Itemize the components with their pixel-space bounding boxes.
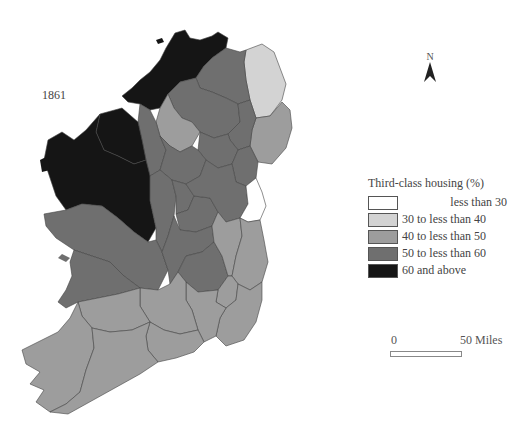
legend-label: 50 to less than 60 <box>402 246 486 261</box>
map-year-label: 1861 <box>42 88 66 103</box>
north-arrow: N <box>420 52 440 88</box>
legend-swatch <box>368 230 398 244</box>
legend-swatch <box>368 264 398 278</box>
legend-item: 50 to less than 60 <box>368 245 507 262</box>
scale-start-label: 0 <box>391 333 397 348</box>
legend-item: less than 30 <box>368 194 507 211</box>
legend-label: 60 and above <box>402 263 466 278</box>
island-tory <box>156 38 164 44</box>
scale-bar-graphic <box>390 351 462 357</box>
legend-swatch <box>368 196 398 210</box>
legend: Third-class housing (%) less than 30 30 … <box>368 176 507 279</box>
legend-swatch <box>368 213 398 227</box>
scale-bar: 0 50 Miles <box>388 333 508 357</box>
legend-title: Third-class housing (%) <box>368 176 507 191</box>
legend-label: 30 to less than 40 <box>402 212 486 227</box>
north-arrow-icon <box>423 62 437 84</box>
legend-label: 40 to less than 50 <box>402 229 486 244</box>
legend-item: 60 and above <box>368 262 507 279</box>
north-label: N <box>420 52 440 62</box>
island-aran <box>58 254 70 262</box>
scale-end-label: 50 Miles <box>460 333 502 348</box>
legend-item: 30 to less than 40 <box>368 211 507 228</box>
legend-label: less than 30 <box>402 195 507 210</box>
legend-item: 40 to less than 50 <box>368 228 507 245</box>
legend-swatch <box>368 247 398 261</box>
